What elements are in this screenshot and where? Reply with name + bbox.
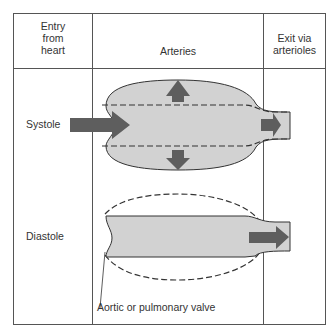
header-arteries: Arteries: [93, 45, 263, 57]
valve-pointer-line: [100, 252, 105, 308]
systole-vessel: [70, 80, 290, 170]
header-exit-line2: arterioles: [264, 44, 325, 56]
header-entry-line1: Entry: [14, 20, 92, 32]
row-label-systole: Systole: [26, 118, 60, 130]
header-exit: Exit via arterioles: [264, 32, 325, 56]
diastole-vessel: [100, 194, 290, 308]
header-entry: Entry from heart: [14, 20, 92, 56]
valve-annotation: Aortic or pulmonary valve: [97, 301, 215, 313]
header-entry-line2: from: [14, 32, 92, 44]
header-exit-line1: Exit via: [264, 32, 325, 44]
row-label-diastole: Diastole: [26, 230, 64, 242]
header-entry-line3: heart: [14, 44, 92, 56]
